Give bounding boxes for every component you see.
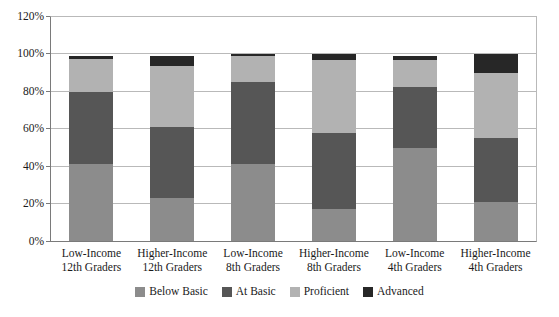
legend-swatch-icon — [363, 287, 373, 297]
bar-segment-advanced — [150, 56, 194, 65]
bar-group — [69, 56, 113, 241]
bar-segment-below-basic — [312, 209, 356, 241]
legend-label: Proficient — [304, 286, 349, 298]
legend-item[interactable]: Below Basic — [135, 286, 207, 298]
bar-segment-below-basic — [150, 198, 194, 241]
bars-layer — [51, 17, 536, 241]
bar-segment-at-basic — [393, 87, 437, 148]
legend-item[interactable]: At Basic — [222, 286, 276, 298]
x-axis-category-label: Higher-Income8th Graders — [294, 246, 375, 274]
legend-label: Below Basic — [149, 286, 207, 298]
bar-group — [312, 54, 356, 241]
bar-group — [231, 54, 275, 241]
x-axis-category-label: Higher-Income12th Graders — [132, 246, 213, 274]
bar-segment-below-basic — [474, 202, 518, 241]
bar-segment-proficient — [150, 66, 194, 128]
bar-segment-proficient — [231, 56, 275, 82]
y-tick-label-40: 40% — [0, 161, 44, 173]
bar-segment-at-basic — [69, 92, 113, 165]
y-tick-label-20: 20% — [0, 198, 44, 210]
bar-segment-advanced — [474, 54, 518, 73]
bar-segment-below-basic — [393, 148, 437, 241]
y-tick-label-80: 80% — [0, 86, 44, 98]
bar-segment-at-basic — [150, 127, 194, 198]
stacked-bar-chart: 120% 100% 80% 60% 40% 20% 0% Low-Income1… — [0, 0, 559, 317]
legend-item[interactable]: Proficient — [290, 286, 349, 298]
legend-swatch-icon — [290, 287, 300, 297]
legend-swatch-icon — [222, 287, 232, 297]
legend-item[interactable]: Advanced — [363, 286, 424, 298]
bar-segment-proficient — [69, 59, 113, 92]
legend-label: Advanced — [377, 286, 424, 298]
bar-segment-at-basic — [312, 133, 356, 210]
legend-swatch-icon — [135, 287, 145, 297]
bar-segment-below-basic — [231, 164, 275, 241]
x-axis-category-label: Low-Income8th Graders — [213, 246, 294, 274]
x-axis-category-label: Higher-Income4th Graders — [455, 246, 536, 274]
bar-segment-proficient — [312, 60, 356, 133]
x-axis-labels: Low-Income12th GradersHigher-Income12th … — [51, 246, 536, 278]
bar-segment-proficient — [474, 73, 518, 138]
y-tick-label-60: 60% — [0, 123, 44, 135]
bar-group — [474, 54, 518, 241]
chart-legend: Below BasicAt BasicProficientAdvanced — [0, 286, 559, 298]
bar-group — [150, 56, 194, 241]
bar-segment-at-basic — [231, 82, 275, 164]
bar-segment-at-basic — [474, 138, 518, 201]
bar-group — [393, 56, 437, 241]
y-tick-label-100: 100% — [0, 48, 44, 60]
legend-label: At Basic — [236, 286, 276, 298]
x-axis-category-label: Low-Income4th Graders — [374, 246, 455, 274]
y-tick-label-0: 0% — [0, 236, 44, 248]
x-axis-category-label: Low-Income12th Graders — [51, 246, 132, 274]
bar-segment-below-basic — [69, 164, 113, 241]
bar-segment-proficient — [393, 60, 437, 87]
y-tick-label-120: 120% — [0, 11, 44, 23]
